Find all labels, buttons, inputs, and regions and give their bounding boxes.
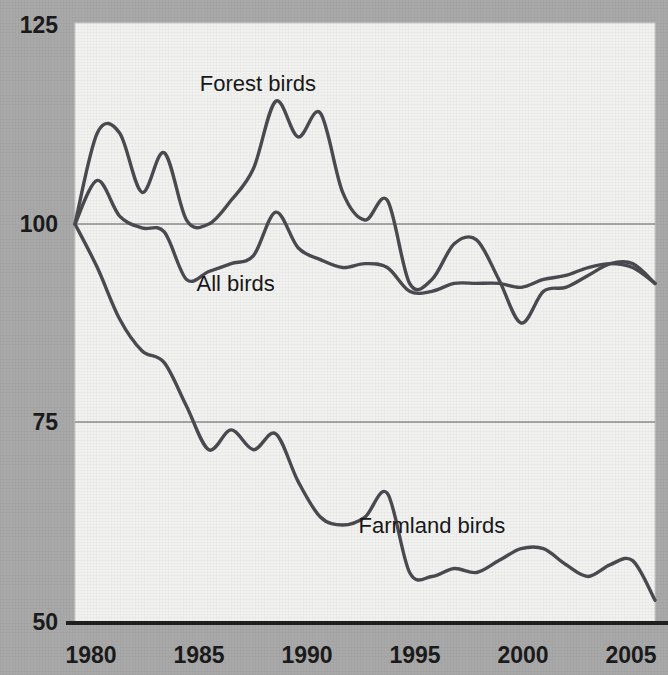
x-axis-ticks: 1980 1985 1990 1995 2000 2005 xyxy=(65,642,656,668)
y-axis-ticks: 125 100 75 50 xyxy=(20,12,59,635)
series-label-all-birds: All birds xyxy=(196,271,274,296)
series-label-farmland-birds: Farmland birds xyxy=(359,513,506,538)
bird-population-index-chart: 125 100 75 50 1980 1985 1990 1995 2000 2… xyxy=(0,0,668,675)
xtick-label-1980: 1980 xyxy=(65,642,116,668)
ytick-label-75: 75 xyxy=(32,409,58,435)
xtick-label-1990: 1990 xyxy=(281,642,332,668)
chart-canvas: 125 100 75 50 1980 1985 1990 1995 2000 2… xyxy=(0,0,668,675)
xtick-label-2005: 2005 xyxy=(605,642,656,668)
ytick-label-100: 100 xyxy=(20,211,58,237)
xtick-label-1995: 1995 xyxy=(389,642,440,668)
series-label-forest-birds: Forest birds xyxy=(200,71,316,96)
xtick-label-2000: 2000 xyxy=(497,642,548,668)
ytick-label-50: 50 xyxy=(32,609,58,635)
ytick-label-125: 125 xyxy=(20,12,59,38)
xtick-label-1985: 1985 xyxy=(173,642,224,668)
